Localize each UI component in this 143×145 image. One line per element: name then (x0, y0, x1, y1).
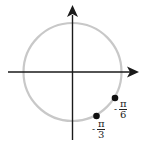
unit-circle-diagram (0, 0, 143, 145)
denominator: 3 (98, 130, 104, 140)
denominator: 6 (120, 110, 126, 120)
minus-sign: - (114, 104, 117, 114)
label-minus-pi-over-6: - π 6 (119, 99, 128, 120)
minus-sign: - (92, 124, 95, 134)
numerator: π (119, 99, 128, 109)
label-minus-pi-over-3: - π 3 (97, 119, 106, 140)
point-minus-pi-over-6 (112, 95, 119, 102)
numerator: π (97, 119, 106, 129)
